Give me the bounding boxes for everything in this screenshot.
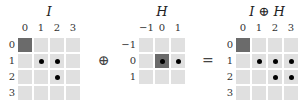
grid-cell bbox=[66, 86, 80, 100]
row-label: −1 bbox=[118, 39, 136, 50]
grid-cell bbox=[139, 38, 153, 52]
grid-title: H bbox=[139, 4, 185, 19]
pixel-dot bbox=[55, 59, 60, 64]
pixel-dot bbox=[39, 59, 44, 64]
grid-cell bbox=[66, 70, 80, 84]
grid-cell bbox=[236, 86, 250, 100]
grid-cell bbox=[252, 54, 266, 68]
grid-cell bbox=[155, 38, 169, 52]
grid-cell bbox=[155, 70, 169, 84]
grid-cell bbox=[66, 54, 80, 68]
grid-cell bbox=[50, 54, 64, 68]
pixel-dot bbox=[289, 59, 294, 64]
grid-cell bbox=[139, 70, 153, 84]
grid-cell bbox=[284, 38, 298, 52]
row-label: 2 bbox=[0, 71, 15, 82]
grid-cell bbox=[50, 70, 64, 84]
origin-cell bbox=[18, 38, 32, 52]
grid-cell bbox=[50, 86, 64, 100]
grid-cell bbox=[34, 38, 48, 52]
grid-cell bbox=[268, 54, 282, 68]
grid-cell bbox=[34, 54, 48, 68]
grid-cell bbox=[252, 38, 266, 52]
pixel-dot bbox=[160, 59, 165, 64]
grid-cell bbox=[268, 70, 282, 84]
row-label: 3 bbox=[0, 87, 15, 98]
grid-cell bbox=[34, 70, 48, 84]
grid-cell bbox=[18, 86, 32, 100]
pixel-dot bbox=[289, 75, 294, 80]
grid-cell bbox=[66, 38, 80, 52]
grid-cell bbox=[50, 38, 64, 52]
grid-cell bbox=[171, 54, 185, 68]
row-label: 0 bbox=[0, 39, 15, 50]
grid-cell bbox=[18, 70, 32, 84]
origin-cell bbox=[155, 54, 169, 68]
pixel-dot bbox=[176, 59, 181, 64]
pixel-dot bbox=[55, 75, 60, 80]
grid-cell bbox=[268, 86, 282, 100]
column-label: 1 bbox=[171, 22, 185, 33]
column-label: 2 bbox=[268, 22, 282, 33]
grid-cell bbox=[171, 70, 185, 84]
pixel-dot bbox=[273, 59, 278, 64]
row-label: 1 bbox=[215, 55, 233, 66]
grid-cell bbox=[34, 86, 48, 100]
column-label: 3 bbox=[66, 22, 80, 33]
column-label: 0 bbox=[155, 22, 169, 33]
column-label: 1 bbox=[34, 22, 48, 33]
column-label: 0 bbox=[236, 22, 250, 33]
row-label: 1 bbox=[118, 71, 136, 82]
grid-title: I bbox=[18, 4, 80, 19]
grid-cell bbox=[236, 70, 250, 84]
column-label: 3 bbox=[284, 22, 298, 33]
grid-cell bbox=[268, 38, 282, 52]
column-label: 0 bbox=[18, 22, 32, 33]
pixel-dot bbox=[273, 75, 278, 80]
column-label: 1 bbox=[252, 22, 266, 33]
grid-cell bbox=[284, 86, 298, 100]
grid-cell bbox=[236, 54, 250, 68]
pixel-dot bbox=[257, 59, 262, 64]
grid-cell bbox=[18, 54, 32, 68]
grid-title: I ⊕ H bbox=[236, 4, 298, 19]
row-label: 3 bbox=[215, 87, 233, 98]
grid-cell bbox=[284, 54, 298, 68]
grid-cell bbox=[252, 70, 266, 84]
equals-sign: = bbox=[202, 52, 214, 68]
row-label: 2 bbox=[215, 71, 233, 82]
origin-cell bbox=[236, 38, 250, 52]
grid-cell bbox=[252, 86, 266, 100]
row-label: 0 bbox=[215, 39, 233, 50]
row-label: 1 bbox=[0, 55, 15, 66]
row-label: 0 bbox=[118, 55, 136, 66]
grid-cell bbox=[284, 70, 298, 84]
dilation-operator: ⊕ bbox=[98, 52, 110, 68]
column-label: −1 bbox=[139, 22, 153, 33]
grid-cell bbox=[139, 54, 153, 68]
column-label: 2 bbox=[50, 22, 64, 33]
grid-cell bbox=[171, 38, 185, 52]
